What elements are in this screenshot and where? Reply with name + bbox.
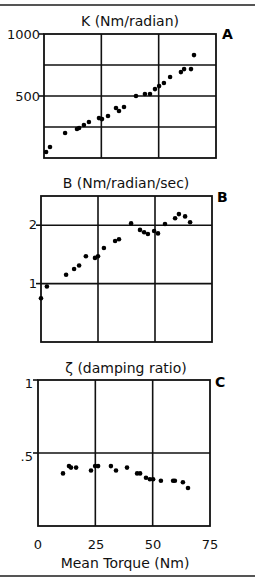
data-point — [74, 465, 79, 470]
data-point — [192, 53, 197, 58]
data-point — [173, 478, 178, 483]
data-point — [157, 84, 162, 89]
data-point — [138, 471, 143, 476]
panel-a-stiffness: K (Nm/radian) A 1000 500 — [7, 13, 233, 158]
data-point — [69, 465, 74, 470]
data-point — [117, 237, 122, 242]
data-point — [45, 284, 50, 289]
panel-a-ytick-500: 500 — [15, 89, 40, 104]
data-point — [89, 468, 94, 473]
data-point — [148, 92, 153, 97]
xtick-0: 0 — [34, 537, 42, 552]
data-point — [151, 477, 156, 482]
data-point — [64, 273, 69, 278]
data-point — [77, 263, 82, 268]
data-point — [39, 296, 44, 301]
data-point — [125, 465, 130, 470]
data-point — [117, 109, 122, 114]
data-point — [156, 231, 161, 236]
data-point — [138, 228, 143, 233]
panel-a-title: K (Nm/radian) — [81, 13, 179, 29]
panel-b-ytick-1: 1 — [29, 276, 37, 291]
figure-canvas: K (Nm/radian) A 1000 500 B (Nm/radian/se… — [0, 0, 255, 579]
xtick-50: 50 — [145, 537, 162, 552]
panel-c-points — [61, 464, 191, 491]
data-point — [189, 67, 194, 72]
xtick-25: 25 — [88, 537, 105, 552]
x-axis-label: Mean Torque (Nm) — [61, 555, 190, 571]
panel-a-points — [44, 53, 197, 155]
data-point — [87, 120, 92, 125]
data-point — [177, 212, 182, 217]
panel-a-ytick-1000: 1000 — [7, 27, 40, 42]
data-point — [96, 254, 101, 259]
data-point — [77, 126, 82, 131]
data-point — [181, 480, 186, 485]
panel-a-grid — [39, 34, 216, 158]
panel-c-ytick-1: 1 — [25, 376, 33, 391]
data-point — [182, 67, 187, 72]
panel-b-ytick-2: 2 — [29, 217, 37, 232]
panel-c-ytick-half: .5 — [21, 449, 33, 464]
data-point — [146, 232, 151, 237]
panel-a-letter: A — [222, 26, 233, 42]
data-point — [96, 464, 101, 469]
data-point — [152, 229, 157, 234]
data-point — [163, 222, 168, 227]
data-point — [183, 214, 188, 219]
data-point — [44, 150, 49, 155]
data-point — [162, 81, 167, 86]
data-point — [48, 145, 53, 150]
data-point — [82, 123, 87, 128]
data-point — [109, 464, 114, 469]
data-point — [143, 92, 148, 97]
data-point — [134, 94, 139, 99]
xtick-75: 75 — [202, 537, 219, 552]
panel-b-title: B (Nm/radian/sec) — [63, 175, 190, 191]
data-point — [102, 246, 107, 251]
data-point — [72, 267, 77, 272]
panel-c-title: ζ (damping ratio) — [65, 360, 186, 376]
panel-b-damping: B (Nm/radian/sec) B 2 1 — [29, 175, 228, 342]
data-point — [186, 486, 191, 491]
data-point — [159, 478, 164, 483]
data-point — [153, 87, 158, 92]
data-point — [114, 468, 119, 473]
data-point — [168, 75, 173, 80]
data-point — [129, 221, 134, 226]
data-point — [100, 117, 105, 122]
data-point — [173, 216, 178, 221]
data-point — [106, 114, 111, 119]
data-point — [84, 254, 89, 259]
panel-c-letter: C — [215, 374, 225, 390]
panel-c-grid — [33, 380, 210, 526]
data-point — [63, 131, 68, 136]
data-point — [188, 220, 193, 225]
panel-b-letter: B — [217, 189, 228, 205]
data-point — [61, 471, 66, 476]
data-point — [122, 105, 127, 110]
panel-c-damping-ratio: ζ (damping ratio) C 1 .5 0 25 50 75 Mean… — [21, 360, 226, 571]
bottom-divider — [0, 575, 255, 577]
